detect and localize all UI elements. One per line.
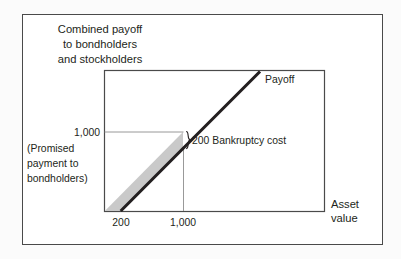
chart-title-line-1: Combined payoff <box>58 23 143 35</box>
promised-payment-note-line-2: payment to <box>27 158 79 169</box>
payoff-chart: Combined payoff to bondholders and stock… <box>0 0 401 259</box>
x-tick-label-200: 200 <box>112 217 130 228</box>
payoff-series-label: Payoff <box>265 74 294 85</box>
promised-payment-note-line-1: (Promised <box>27 143 75 154</box>
chart-title-line-3: and stockholders <box>58 53 143 65</box>
x-tick-label-1000: 1,000 <box>170 217 196 228</box>
chart-title-line-2: to bondholders <box>63 38 137 50</box>
figure-page: Combined payoff to bondholders and stock… <box>0 0 401 259</box>
x-axis-label-line-2: value <box>331 212 358 224</box>
bankruptcy-cost-annotation: 200 Bankruptcy cost <box>192 135 286 146</box>
promised-payment-note-line-3: bondholders) <box>27 173 88 184</box>
x-axis-label-line-1: Asset <box>331 198 360 210</box>
y-tick-label-1000: 1,000 <box>74 127 100 138</box>
